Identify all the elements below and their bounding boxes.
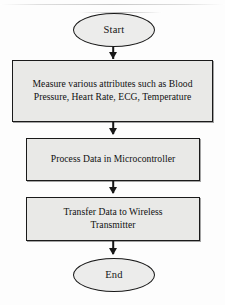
node-measure-label-line-2: Pressure, Heart Rate, ECG, Temperature bbox=[34, 91, 191, 102]
node-measure-label-line-1: Measure various attributes such as Blood bbox=[33, 78, 193, 89]
scan-artifact-line bbox=[0, 4, 225, 5]
node-transfer[interactable]: Transfer Data to WirelessTransmitter bbox=[26, 197, 200, 241]
down-arrow-icon bbox=[109, 128, 117, 135]
down-arrow-icon bbox=[109, 248, 117, 255]
node-transfer-label-line-1: Transfer Data to Wireless bbox=[63, 206, 162, 217]
node-transfer-label: Transfer Data to WirelessTransmitter bbox=[58, 206, 167, 231]
node-process[interactable]: Process Data in Microcontroller bbox=[26, 138, 200, 181]
down-arrow-icon bbox=[109, 52, 117, 59]
node-start-label: Start bbox=[104, 24, 125, 36]
node-end[interactable]: End bbox=[73, 258, 155, 292]
node-end-label: End bbox=[105, 269, 123, 281]
node-transfer-label-line-2: Transmitter bbox=[91, 219, 136, 230]
node-measure-label: Measure various attributes such as Blood… bbox=[28, 78, 198, 103]
down-arrow-icon bbox=[109, 187, 117, 194]
node-process-label: Process Data in Microcontroller bbox=[46, 153, 180, 166]
node-start[interactable]: Start bbox=[73, 13, 155, 47]
node-measure[interactable]: Measure various attributes such as Blood… bbox=[12, 60, 213, 122]
flowchart-canvas: Start Measure various attributes such as… bbox=[0, 0, 225, 305]
